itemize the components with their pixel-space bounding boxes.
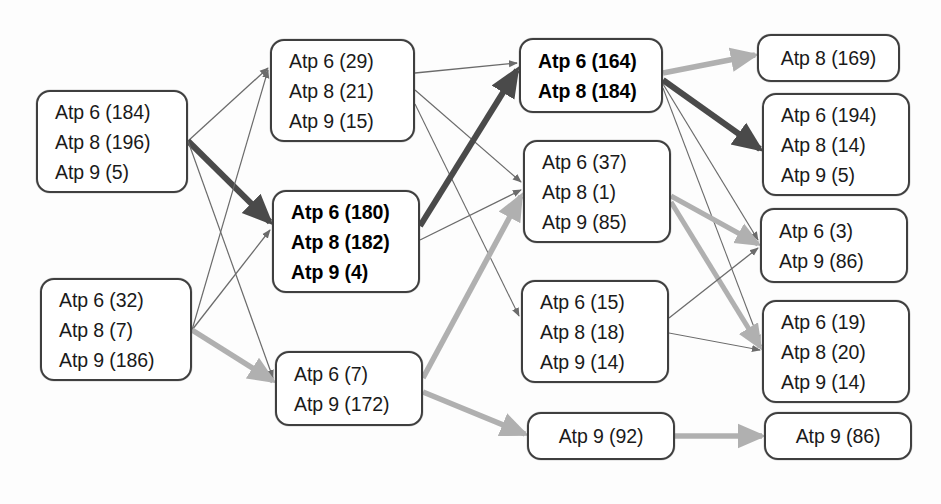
edge-n8-n12 [669, 248, 758, 318]
node-line: Atp 6 (29) [289, 46, 374, 76]
node-line: Atp 8 (20) [781, 337, 866, 367]
node-n5[interactable]: Atp 6 (7)Atp 9 (172) [275, 351, 423, 426]
node-line: Atp 9 (5) [781, 160, 855, 190]
node-line: Atp 9 (86) [796, 421, 881, 451]
edge-n6-n10 [663, 55, 755, 73]
node-line: Atp 9 (5) [55, 157, 129, 187]
edge-n2-n4 [192, 230, 270, 330]
edge-n2-n3 [192, 70, 268, 330]
node-line: Atp 6 (164) [538, 46, 637, 76]
edge-n6-n11 [663, 80, 760, 149]
node-line: Atp 6 (3) [779, 216, 853, 246]
edge-n4-n6 [420, 70, 517, 226]
node-n9[interactable]: Atp 9 (92) [527, 412, 675, 460]
node-line: Atp 6 (194) [781, 100, 876, 130]
node-line: Atp 9 (86) [779, 246, 864, 276]
node-line: Atp 9 (14) [540, 347, 625, 377]
node-line: Atp 9 (14) [781, 367, 866, 397]
node-line: Atp 8 (169) [781, 43, 876, 73]
node-line: Atp 8 (21) [289, 76, 374, 106]
node-line: Atp 8 (182) [291, 227, 390, 257]
node-line: Atp 6 (32) [59, 285, 144, 315]
node-line: Atp 8 (18) [540, 317, 625, 347]
node-n12[interactable]: Atp 6 (3)Atp 9 (86) [760, 208, 908, 283]
node-line: Atp 6 (15) [540, 287, 625, 317]
node-n1[interactable]: Atp 6 (184)Atp 8 (196)Atp 9 (5) [36, 90, 188, 193]
edge-n5-n7 [423, 196, 521, 378]
node-n7[interactable]: Atp 6 (37)Atp 8 (1)Atp 9 (85) [523, 140, 671, 243]
node-line: Atp 6 (180) [291, 197, 390, 227]
node-line: Atp 9 (4) [291, 257, 368, 287]
node-line: Atp 9 (92) [559, 421, 644, 451]
node-n3[interactable]: Atp 6 (29)Atp 8 (21)Atp 9 (15) [270, 39, 415, 142]
node-n6[interactable]: Atp 6 (164)Atp 8 (184) [519, 38, 663, 113]
node-n8[interactable]: Atp 6 (15)Atp 8 (18)Atp 9 (14) [521, 280, 669, 383]
node-line: Atp 8 (184) [538, 76, 637, 106]
edge-n1-n3 [188, 68, 268, 141]
edge-n1-n5 [188, 141, 273, 378]
node-n2[interactable]: Atp 6 (32)Atp 8 (7)Atp 9 (186) [40, 278, 192, 381]
diagram-canvas: Atp 6 (184)Atp 8 (196)Atp 9 (5)Atp 6 (32… [0, 0, 941, 504]
node-line: Atp 6 (37) [542, 147, 627, 177]
node-n11[interactable]: Atp 6 (194)Atp 8 (14)Atp 9 (5) [762, 93, 910, 196]
edge-n5-n9 [423, 392, 525, 434]
edge-n7-n13 [671, 202, 760, 347]
node-line: Atp 8 (196) [55, 127, 150, 157]
node-line: Atp 8 (1) [542, 177, 616, 207]
edge-n2-n5 [192, 330, 273, 381]
node-line: Atp 9 (186) [59, 345, 154, 375]
node-line: Atp 6 (7) [294, 359, 368, 389]
edge-n3-n6 [415, 63, 517, 73]
node-line: Atp 6 (19) [781, 307, 866, 337]
edge-n1-n4 [188, 141, 270, 222]
node-line: Atp 8 (7) [59, 315, 133, 345]
node-n13[interactable]: Atp 6 (19)Atp 8 (20)Atp 9 (14) [762, 300, 910, 403]
node-line: Atp 9 (85) [542, 207, 627, 237]
edge-n8-n13 [669, 333, 760, 350]
node-line: Atp 9 (15) [289, 106, 374, 136]
node-n10[interactable]: Atp 8 (169) [757, 34, 900, 82]
node-line: Atp 6 (184) [55, 97, 150, 127]
node-line: Atp 8 (14) [781, 130, 866, 160]
node-n14[interactable]: Atp 9 (86) [764, 412, 912, 460]
node-line: Atp 9 (172) [294, 389, 389, 419]
node-n4[interactable]: Atp 6 (180)Atp 8 (182)Atp 9 (4) [272, 190, 420, 293]
